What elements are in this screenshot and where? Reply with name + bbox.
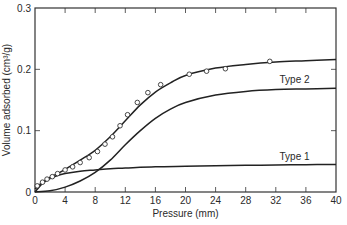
x-tick-label: 40 (330, 195, 342, 206)
x-axis-title: Pressure (mm) (152, 208, 218, 219)
data-point (110, 135, 115, 140)
data-point (70, 165, 75, 170)
y-tick-label: 0.2 (17, 64, 31, 75)
y-tick-label: 0.3 (17, 3, 31, 14)
adsorption-isotherm-chart: 048121620242832364000.10.20.3 Type 2 Typ… (0, 0, 347, 225)
data-point (55, 171, 60, 176)
data-point (35, 184, 40, 189)
data-point (158, 82, 163, 87)
x-tick-label: 8 (92, 195, 98, 206)
data-point (146, 90, 151, 95)
x-tick-label: 28 (240, 195, 252, 206)
x-tick-label: 4 (62, 195, 68, 206)
data-point (187, 72, 192, 77)
x-tick-label: 20 (180, 195, 192, 206)
markers-group (35, 59, 272, 188)
data-point (135, 100, 140, 105)
series-label-type-1: Type 1 (280, 151, 310, 162)
series-line-type-2 (35, 88, 336, 192)
data-point (78, 160, 83, 165)
y-tick-label: 0 (25, 187, 31, 198)
data-point (50, 174, 55, 179)
data-point (87, 155, 92, 160)
y-axis-title: Volume adsorbed (cm³/g) (1, 44, 12, 156)
data-point (103, 142, 108, 147)
data-point (118, 123, 123, 128)
data-point (223, 66, 228, 71)
data-point (204, 69, 209, 74)
data-point (63, 168, 68, 173)
data-point (125, 112, 130, 117)
series-label-type-2: Type 2 (280, 74, 310, 85)
data-point (267, 59, 272, 64)
data-point (95, 149, 100, 154)
x-tick-label: 36 (300, 195, 312, 206)
x-tick-label: 0 (32, 195, 38, 206)
x-tick-label: 32 (270, 195, 282, 206)
x-tick-label: 24 (210, 195, 222, 206)
y-tick-label: 0.1 (17, 125, 31, 136)
x-tick-label: 16 (150, 195, 162, 206)
data-point (45, 177, 50, 182)
data-point (40, 180, 45, 185)
x-tick-label: 12 (120, 195, 132, 206)
